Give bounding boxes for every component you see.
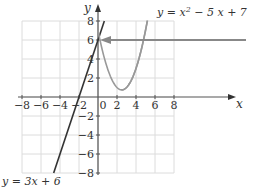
parabola-equation-label: y = x2 − 5 x + 7 (156, 5, 247, 19)
plot-area: −8−6−4−202468−8−6−4−22468 x y y = 3x + 6… (0, 0, 255, 187)
x-tick-label: −4 (52, 99, 68, 112)
x-tick-label: 2 (114, 99, 121, 112)
x-tick-label: 8 (171, 99, 178, 112)
annotations (100, 36, 246, 44)
y-tick-label: −4 (78, 129, 94, 142)
y-tick-label: −6 (78, 148, 94, 161)
y-tick-label: 8 (87, 15, 94, 28)
x-tick-label: 4 (133, 99, 140, 112)
x-axis-label: x (236, 97, 243, 111)
y-axis-arrow-icon (95, 4, 101, 12)
y-tick-label: 2 (87, 72, 94, 85)
x-tick-label: −8 (14, 99, 30, 112)
x-tick-label: 0 (100, 99, 107, 112)
x-tick-label: 6 (152, 99, 159, 112)
x-axis-arrow-icon (228, 94, 236, 100)
axes (18, 4, 236, 175)
parabola-series-right (122, 21, 148, 90)
pointer-arrowhead-icon (100, 36, 111, 44)
y-tick-label: −8 (78, 167, 94, 180)
function-graph: −8−6−4−202468−8−6−4−22468 x y y = 3x + 6… (0, 0, 255, 187)
y-axis-label: y (83, 1, 91, 15)
line-equation-label: y = 3x + 6 (1, 175, 61, 187)
y-tick-label: 6 (87, 34, 94, 47)
y-tick-label: −2 (78, 110, 94, 123)
x-tick-label: −6 (33, 99, 49, 112)
